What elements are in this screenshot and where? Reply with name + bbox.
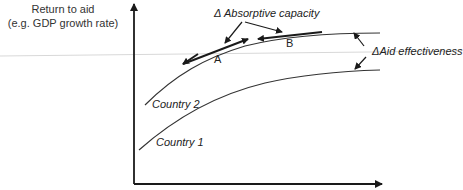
absorptive-arrow-a bbox=[225, 22, 242, 43]
country2-label: Country 2 bbox=[152, 98, 200, 110]
absorptive-arrow-b bbox=[245, 22, 282, 32]
aid-effectiveness-label: ΔAid effectiveness bbox=[372, 45, 463, 57]
aid-eff-arrow-down bbox=[355, 57, 366, 69]
aid-eff-arrow-up bbox=[354, 33, 364, 46]
point-a-label: A bbox=[214, 53, 221, 65]
point-b-label: B bbox=[286, 37, 293, 49]
country1-label: Country 1 bbox=[156, 136, 204, 148]
country2-curve bbox=[145, 33, 380, 105]
absorptive-capacity-label: Δ Absorptive capacity bbox=[214, 7, 319, 19]
